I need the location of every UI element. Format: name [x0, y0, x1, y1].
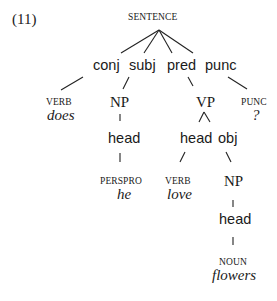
- node-subj: subj: [129, 58, 156, 73]
- edge-sentence-pred: [159, 30, 172, 53]
- node-obj-head: head: [219, 212, 251, 227]
- node-vp: VP: [196, 95, 215, 110]
- word-flowers: flowers: [212, 268, 256, 283]
- node-conj: conj: [93, 58, 120, 73]
- word-he: he: [117, 187, 131, 202]
- node-subj-np: NP: [110, 95, 129, 110]
- node-obj-np: NP: [224, 174, 243, 189]
- word-love: love: [167, 187, 192, 202]
- edge-vp-obj: [204, 112, 210, 122]
- node-subj-head: head: [108, 131, 140, 146]
- node-vp-head: head: [180, 131, 212, 146]
- edge-sentence-punc: [159, 30, 193, 53]
- edge-obj-np: [226, 152, 231, 162]
- edge-vphead-verb: [180, 152, 185, 162]
- tree-edges: [0, 0, 277, 301]
- edge-sentence-conj: [121, 30, 159, 53]
- word-does: does: [47, 108, 75, 123]
- node-pred: pred: [167, 58, 196, 73]
- node-vp-obj: obj: [218, 131, 237, 146]
- word-question-mark: ?: [252, 108, 260, 123]
- edge-sentence-subj: [144, 30, 159, 53]
- node-sentence: SENTENCE: [128, 13, 177, 23]
- edge-subj-np: [123, 77, 129, 89]
- node-punc: punc: [205, 58, 236, 73]
- edge-pred-vp: [188, 77, 193, 86]
- example-number: (11): [12, 12, 36, 27]
- syntax-tree-diagram: (11) SENTENCE conj subj pred punc VERB d…: [0, 0, 277, 301]
- edge-vp-head: [199, 112, 204, 122]
- edge-punc-punc: [228, 77, 247, 89]
- edge-conj-verb: [61, 77, 83, 90]
